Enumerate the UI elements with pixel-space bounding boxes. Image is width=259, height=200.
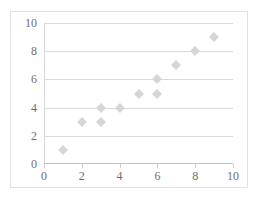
x-axis-tick-mark bbox=[120, 164, 121, 168]
x-axis-tick-label: 0 bbox=[41, 170, 47, 182]
gridline-horizontal bbox=[44, 108, 233, 109]
y-axis-tick-label: 10 bbox=[25, 17, 37, 29]
scatter-point bbox=[209, 32, 219, 42]
gridline-horizontal bbox=[44, 23, 233, 24]
scatter-point bbox=[58, 145, 68, 155]
gridline-horizontal bbox=[44, 136, 233, 137]
x-axis-tick-mark bbox=[82, 164, 83, 168]
chart-frame: 0246810 0246810 bbox=[10, 11, 248, 188]
x-axis-tick-label: 2 bbox=[79, 170, 85, 182]
scatter-point bbox=[96, 103, 106, 113]
x-axis-tick-label: 8 bbox=[192, 170, 198, 182]
scatter-point bbox=[152, 74, 162, 84]
x-axis-tick-label: 6 bbox=[154, 170, 160, 182]
scatter-point bbox=[152, 89, 162, 99]
x-axis-tick-mark bbox=[157, 164, 158, 168]
y-axis-line bbox=[44, 23, 45, 164]
y-axis-tick-label: 0 bbox=[31, 158, 37, 170]
scatter-point bbox=[115, 103, 125, 113]
scatter-point bbox=[190, 46, 200, 56]
x-axis-tick-mark bbox=[195, 164, 196, 168]
x-axis-tick-label: 4 bbox=[117, 170, 123, 182]
gridline-horizontal bbox=[44, 51, 233, 52]
x-axis-tick-label: 10 bbox=[227, 170, 239, 182]
scatter-point bbox=[77, 117, 87, 127]
scatter-point bbox=[96, 117, 106, 127]
y-axis-tick-label: 2 bbox=[31, 130, 37, 142]
x-axis-tick-mark bbox=[233, 164, 234, 168]
scatter-point bbox=[171, 60, 181, 70]
y-axis-tick-label: 6 bbox=[31, 73, 37, 85]
x-axis-tick-mark bbox=[44, 164, 45, 168]
y-axis-tick-label: 8 bbox=[31, 45, 37, 57]
plot-area: 0246810 0246810 bbox=[44, 23, 233, 164]
scatter-point bbox=[134, 89, 144, 99]
gridline-horizontal bbox=[44, 79, 233, 80]
y-axis-tick-label: 4 bbox=[31, 102, 37, 114]
x-axis-line bbox=[44, 163, 233, 164]
